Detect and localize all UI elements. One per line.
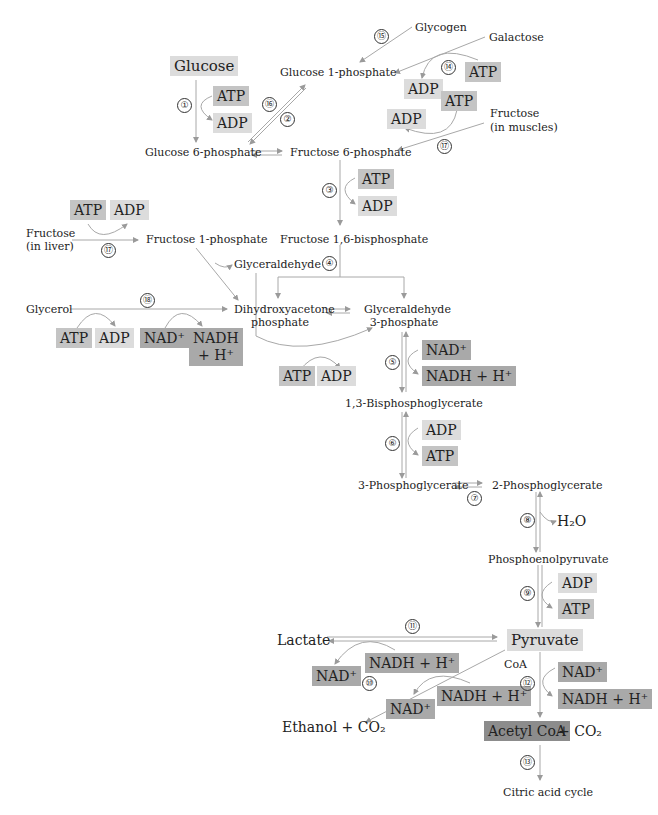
step-16-label: ⑯	[262, 97, 277, 112]
nadh-box-10: NADH + H⁺	[437, 686, 531, 706]
dhap-label-1: Dihydroxyacetone	[234, 303, 326, 316]
fructose-6-phosphate-label: Fructose 6-phosphate	[290, 146, 412, 159]
step-14-label: ⑭	[441, 60, 456, 75]
atp-box-17l: ATP	[70, 200, 106, 220]
step-12-label: ⑫	[520, 676, 535, 691]
citric-acid-cycle-label: Citric acid cycle	[503, 786, 593, 799]
step-13-label: ⑬	[520, 755, 535, 770]
nad-box-5: NAD⁺	[422, 340, 471, 360]
step-17-label-muscle: ⑰	[437, 139, 452, 154]
glycolysis-pathway-diagram: Glucose ATP ADP ① ⑯ ② Glucose 6-phosphat…	[0, 0, 658, 815]
atp-box-9: ATP	[558, 599, 594, 619]
ethanol-co2-label: Ethanol + CO₂	[282, 719, 386, 735]
nad-box-11: NAD⁺	[312, 666, 361, 686]
adp-box-14: ADP	[404, 79, 443, 99]
fructose-muscles-label-2: (in muscles)	[490, 121, 558, 134]
step-17-label-liver: ⑰	[101, 243, 116, 258]
step-8-label: ⑧	[520, 513, 535, 528]
atp-box-1: ATP	[213, 86, 249, 106]
step-6-label: ⑥	[385, 436, 400, 451]
nad-box-10: NAD⁺	[386, 699, 435, 719]
lactate-label: Lactate	[277, 632, 330, 648]
gap-label-1: Glyceraldehyde	[364, 303, 444, 316]
glucose-1-phosphate-label: Glucose 1-phosphate	[280, 66, 397, 79]
atp-box-3: ATP	[358, 169, 394, 189]
13-bisphosphoglycerate-label: 1,3-Bisphosphoglycerate	[345, 397, 483, 410]
nadh-text-1: NADH	[193, 330, 239, 347]
fructose-muscles-label-1: Fructose	[490, 107, 539, 120]
adp-box-17l: ADP	[110, 200, 149, 220]
coa-label: CoA	[504, 658, 527, 671]
dhap-label: Dihydroxyacetone phosphate	[234, 303, 326, 329]
fructose-16-bisphosphate-label: Fructose 1,6-bisphosphate	[280, 233, 428, 246]
glyceraldehyde-label: Glyceraldehyde	[234, 258, 321, 271]
adp-box-6: ADP	[422, 420, 461, 440]
glucose-6-phosphate-label: Glucose 6-phosphate	[145, 146, 262, 159]
step-5-label: ⑤	[385, 355, 400, 370]
acetyl-co2-label: + CO₂	[558, 723, 602, 739]
nadh-text-2: + H⁺	[193, 347, 239, 364]
nadh-box-11: NADH + H⁺	[365, 653, 459, 673]
gap-label: Glyceraldehyde 3-phosphate	[364, 303, 444, 329]
gap-label-2: 3-phosphate	[364, 316, 444, 329]
step-1-label: ①	[177, 98, 192, 113]
step-4-label: ④	[322, 256, 337, 271]
dhap-label-2: phosphate	[234, 316, 326, 329]
atp-box-6: ATP	[422, 446, 458, 466]
nadh-box-5: NADH + H⁺	[422, 366, 516, 386]
step-7-label: ⑦	[467, 491, 482, 506]
3-phosphoglycerate-label: 3-Phosphoglycerate	[358, 479, 468, 492]
atp-box-dhap: ATP	[279, 366, 315, 386]
water-label: H₂O	[557, 513, 586, 529]
step-2-label: ②	[280, 112, 295, 127]
atp-box-14: ATP	[465, 62, 501, 82]
2-phosphoglycerate-label: 2-Phosphoglycerate	[492, 479, 602, 492]
pyruvate-box: Pyruvate	[507, 629, 583, 651]
step-3-label: ③	[322, 183, 337, 198]
adp-box-1: ADP	[213, 113, 252, 133]
glucose-box: Glucose	[170, 56, 238, 76]
nad-box-12: NAD⁺	[558, 662, 607, 682]
phosphoenolpyruvate-label: Phosphoenolpyruvate	[488, 553, 609, 566]
adp-box-17m: ADP	[387, 109, 426, 129]
step-10-label: ⑩	[362, 676, 377, 691]
step-15-label: ⑮	[374, 29, 389, 44]
fructose-1-phosphate-label: Fructose 1-phosphate	[146, 233, 268, 246]
nadh-box-12: NADH + H⁺	[558, 689, 652, 709]
step-9-label: ⑨	[520, 586, 535, 601]
glycogen-label: Glycogen	[415, 21, 467, 34]
glycerol-label: Glycerol	[26, 303, 73, 316]
galactose-label: Galactose	[489, 31, 544, 44]
nad-box-18: NAD⁺	[140, 328, 189, 348]
step-11-label: ⑪	[405, 619, 420, 634]
adp-box-9: ADP	[558, 573, 597, 593]
adp-box-dhap: ADP	[317, 366, 356, 386]
adp-box-3: ADP	[358, 196, 397, 216]
step-18-label: ⑱	[140, 293, 155, 308]
atp-box-17m: ATP	[441, 91, 477, 111]
adp-box-18: ADP	[95, 328, 134, 348]
atp-box-18: ATP	[56, 328, 92, 348]
fructose-liver-label-1: Fructose	[26, 227, 75, 240]
fructose-liver-label-2: (in liver)	[26, 240, 74, 253]
nadh-box-18: NADH + H⁺	[189, 328, 243, 366]
